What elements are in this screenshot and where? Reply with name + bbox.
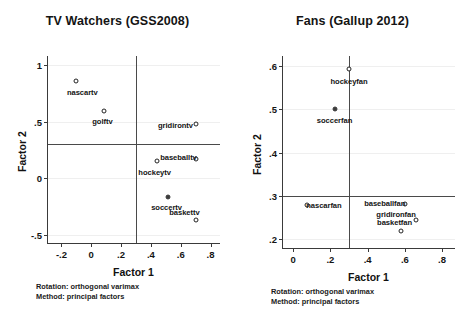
footnote-right: Rotation: orthogonal varimax Method: pri… <box>271 287 374 307</box>
y-axis-tick <box>279 66 283 67</box>
x-axis-tick <box>330 248 331 252</box>
x-axis-tick <box>121 243 122 247</box>
scatter-point-label: baseballtv <box>160 153 197 162</box>
y-axis-tick <box>44 65 48 66</box>
x-axis-tick-label: .2 <box>117 249 125 260</box>
y-axis-tick-label: .4 <box>269 147 277 158</box>
scatter-point[interactable] <box>154 159 159 164</box>
y-axis-tick-label: .6 <box>269 60 277 71</box>
y-gridline <box>283 109 455 110</box>
y-axis-tick-label: .5 <box>269 104 277 115</box>
y-gridline <box>48 235 220 236</box>
x-axis-tick <box>61 243 62 247</box>
x-axis-tick-label: .4 <box>364 254 372 265</box>
scatter-point-label: basketfan <box>377 218 412 227</box>
scatter-point-label: nascarfan <box>306 201 341 210</box>
x-axis-tick-label: .8 <box>207 249 215 260</box>
footnote-left: Rotation: orthogonal varimax Method: pri… <box>36 282 139 302</box>
x-axis-tick <box>211 243 212 247</box>
y-gridline <box>283 153 455 154</box>
x-axis-tick <box>151 243 152 247</box>
plot-area-left: 1.50-.5-.20.2.4.6.8nascartvgolftvgridiro… <box>47 56 220 244</box>
y-axis-title-left: Factor 2 <box>16 131 28 172</box>
scatter-point-label: hockeytv <box>138 167 171 176</box>
y-axis-tick <box>279 109 283 110</box>
y-axis-tick-label: .2 <box>269 234 277 245</box>
x-axis-tick <box>368 248 369 252</box>
x-axis-tick-label: .6 <box>177 249 185 260</box>
x-axis-title-right: Factor 1 <box>282 271 455 283</box>
scatter-point-label: hockeyfan <box>330 76 367 85</box>
figure-canvas: TV Watchers (GSS2008) 1.50-.5-.20.2.4.6.… <box>0 0 470 313</box>
x-axis-tick-label: 0 <box>291 254 296 265</box>
scatter-point[interactable] <box>347 67 352 72</box>
chart-title-left: TV Watchers (GSS2008) <box>0 14 235 28</box>
y-gridline <box>48 178 220 179</box>
panel-tv-watchers: TV Watchers (GSS2008) 1.50-.5-.20.2.4.6.… <box>0 0 235 313</box>
x-axis-title-left: Factor 1 <box>47 266 220 278</box>
scatter-point[interactable] <box>193 218 198 223</box>
x-axis-tick <box>293 248 294 252</box>
y-axis-tick <box>44 178 48 179</box>
scatter-point-label: nascartv <box>67 87 98 96</box>
vertical-reference-line <box>136 56 137 243</box>
x-axis-tick-label: 0 <box>89 249 94 260</box>
y-axis-tick-label: 0 <box>37 173 42 184</box>
panel-fans: Fans (Gallup 2012) .6.5.4.3.20.2.4.6.8ho… <box>235 0 470 313</box>
x-axis-tick-label: .8 <box>438 254 446 265</box>
scatter-point-label: baseballfan <box>364 198 405 207</box>
scatter-point-label: gridirontv <box>158 121 193 130</box>
scatter-point-label: golftv <box>92 117 112 126</box>
x-axis-tick-label: .4 <box>147 249 155 260</box>
scatter-point[interactable] <box>101 108 106 113</box>
x-axis-tick-label: .2 <box>326 254 334 265</box>
y-gridline <box>283 239 455 240</box>
x-axis-tick <box>181 243 182 247</box>
scatter-point[interactable] <box>399 228 404 233</box>
y-axis-tick <box>279 153 283 154</box>
y-gridline <box>48 65 220 66</box>
x-axis-tick-label: -.2 <box>56 249 67 260</box>
x-axis-tick <box>405 248 406 252</box>
y-axis-tick <box>279 239 283 240</box>
y-axis-tick <box>44 235 48 236</box>
y-axis-tick-label: .3 <box>269 190 277 201</box>
plot-area-right: .6.5.4.3.20.2.4.6.8hockeyfansoccerfannas… <box>282 56 455 249</box>
y-axis-tick-label: -.5 <box>31 229 42 240</box>
x-axis-tick-label: .6 <box>401 254 409 265</box>
x-axis-tick <box>442 248 443 252</box>
y-axis-tick-label: .5 <box>34 116 42 127</box>
y-axis-tick-label: 1 <box>37 60 42 71</box>
y-axis-title-right: Factor 2 <box>251 134 263 175</box>
scatter-point[interactable] <box>193 121 198 126</box>
scatter-point[interactable] <box>333 107 338 112</box>
chart-title-right: Fans (Gallup 2012) <box>235 14 470 28</box>
y-gridline <box>283 66 455 67</box>
scatter-point-label: soccerfan <box>317 115 352 124</box>
scatter-point[interactable] <box>166 195 171 200</box>
x-axis-tick <box>91 243 92 247</box>
horizontal-reference-line <box>48 144 220 145</box>
y-axis-tick <box>44 122 48 123</box>
scatter-point-label: baskettv <box>169 207 199 216</box>
scatter-point[interactable] <box>73 79 78 84</box>
horizontal-reference-line <box>283 196 455 197</box>
